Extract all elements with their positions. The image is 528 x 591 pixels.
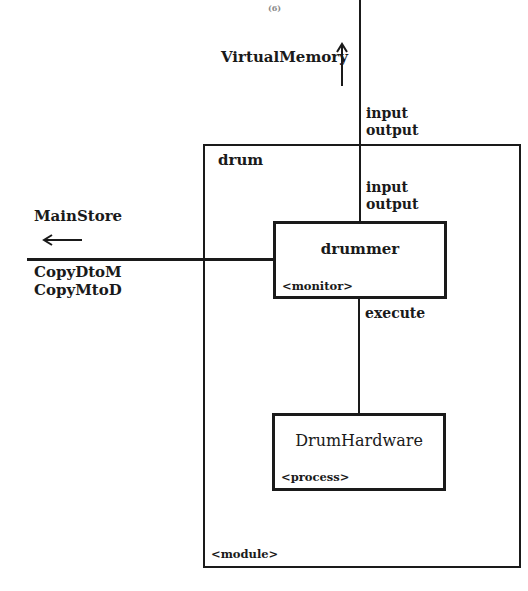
mainstore-label: MainStore xyxy=(34,208,122,225)
arrow-left-icon xyxy=(42,233,82,247)
execute-label: execute xyxy=(365,305,425,322)
drummer-name: drummer xyxy=(276,241,444,258)
virtualmemory-connector xyxy=(359,0,361,222)
arrow-up-icon xyxy=(336,42,348,88)
drumhardware-name: DrumHardware xyxy=(275,432,443,449)
virtualmemory-label: VirtualMemory xyxy=(221,49,348,66)
module-frame xyxy=(203,144,521,568)
top-inner-input-label: input xyxy=(366,179,408,196)
top-outer-output-label: output xyxy=(366,122,418,139)
drumhardware-component: DrumHardware <process> xyxy=(272,413,446,491)
execute-connector xyxy=(358,298,360,414)
page-number: (6) xyxy=(268,0,281,17)
top-inner-output-label: output xyxy=(366,196,418,213)
top-outer-input-label: input xyxy=(366,105,408,122)
module-name: drum xyxy=(218,152,263,169)
mainstore-connector xyxy=(27,258,274,261)
copymtod-label: CopyMtoD xyxy=(34,282,122,299)
drumhardware-stereotype: <process> xyxy=(281,469,349,486)
drummer-component: drummer <monitor> xyxy=(273,221,447,299)
copydtom-label: CopyDtoM xyxy=(34,264,122,281)
drummer-stereotype: <monitor> xyxy=(282,278,353,295)
module-stereotype: <module> xyxy=(211,546,278,563)
